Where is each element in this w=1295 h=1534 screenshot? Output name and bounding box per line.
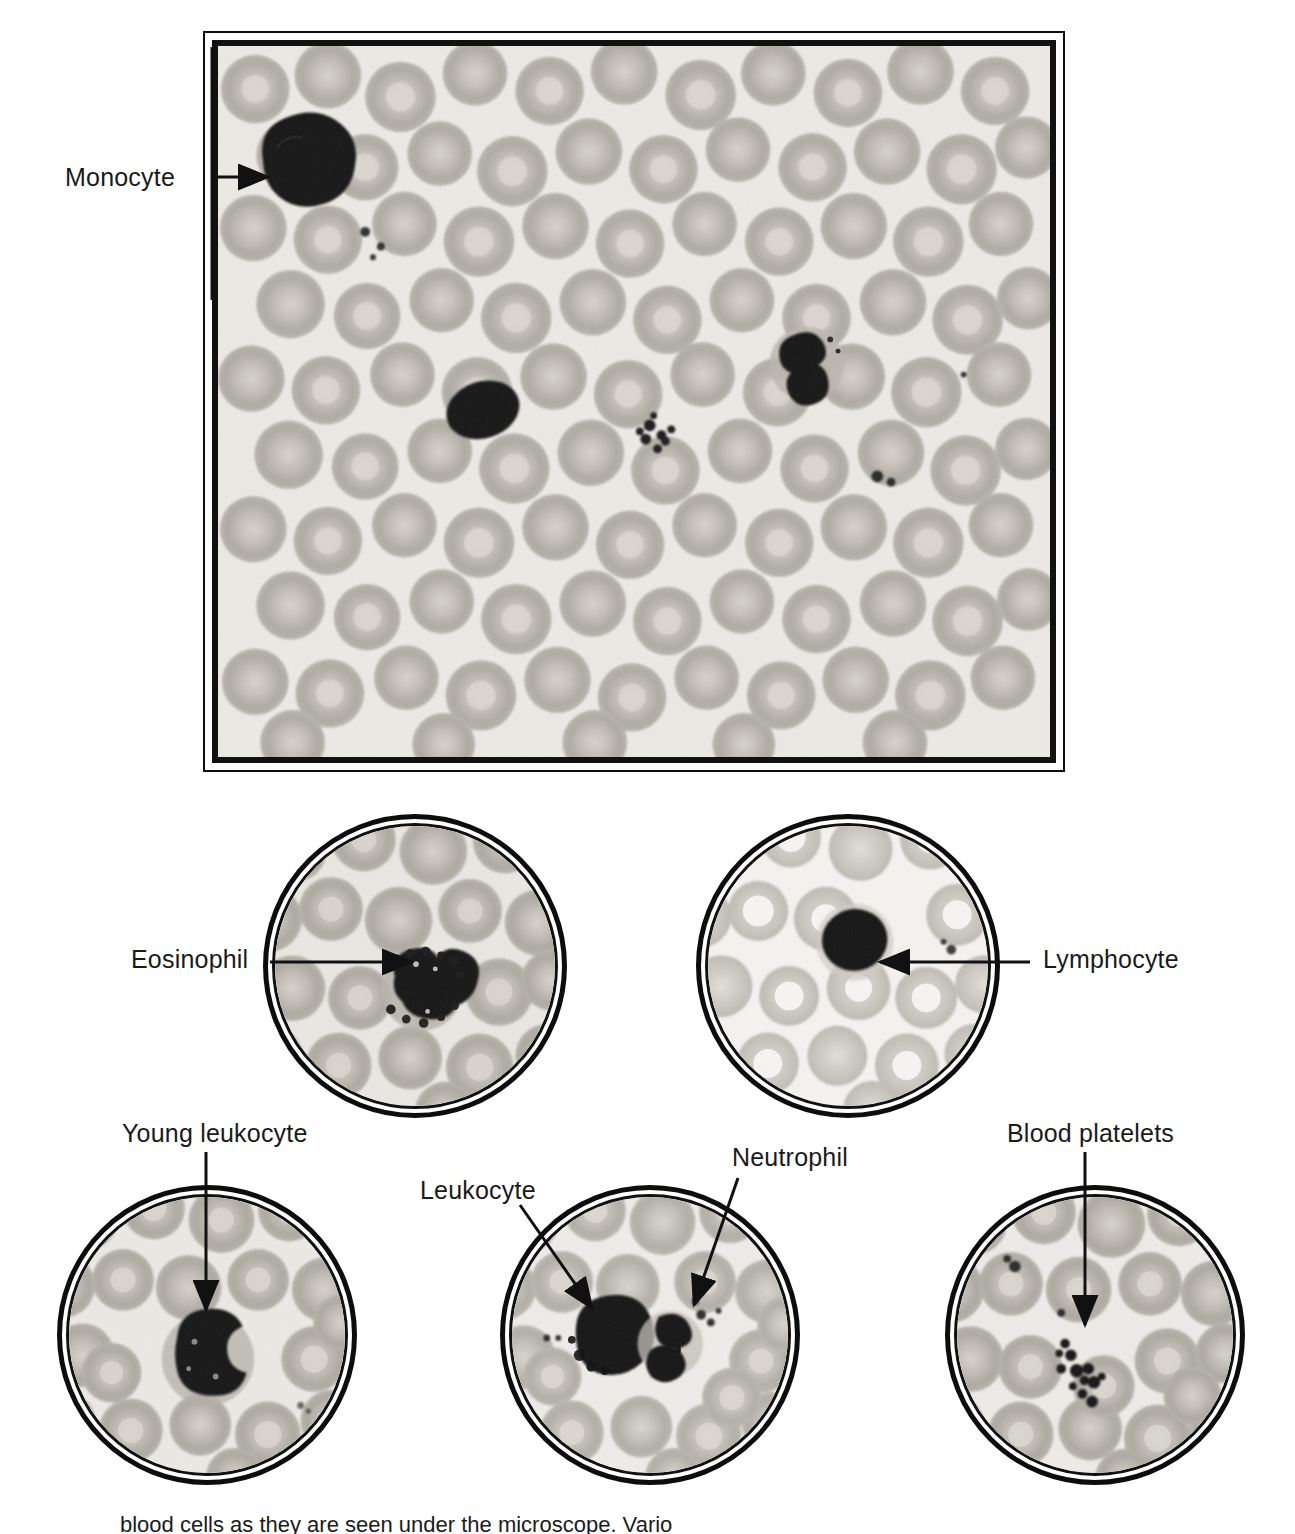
leukocyte-neutrophil-circle xyxy=(500,1185,800,1485)
young-leukocyte-circle-inner xyxy=(66,1194,348,1476)
lymphocyte-micrograph-field xyxy=(708,826,988,1106)
monocyte-cell xyxy=(262,112,356,206)
figure-caption: blood cells as they are seen under the m… xyxy=(120,1512,1220,1534)
main-field-svg xyxy=(218,46,1050,757)
main-micrograph-field xyxy=(218,46,1050,757)
lymphocyte-circle-inner xyxy=(705,823,991,1109)
leukocyte-neutrophil-circle-inner xyxy=(509,1194,791,1476)
label-young-leukocyte: Young leukocyte xyxy=(122,1119,308,1148)
eosinophil-micrograph-field xyxy=(275,826,555,1106)
label-leukocyte: Leukocyte xyxy=(420,1176,536,1205)
label-eosinophil: Eosinophil xyxy=(131,945,248,974)
eosinophil-circle-inner xyxy=(272,823,558,1109)
label-neutrophil: Neutrophil xyxy=(732,1143,848,1172)
leukocyte-neutrophil-micrograph-field xyxy=(512,1197,788,1473)
main-plate-inner-border xyxy=(212,40,1056,763)
young-leukocyte-micrograph-field xyxy=(69,1197,345,1473)
eosinophil-field-svg xyxy=(275,826,555,1106)
lymphocyte-field-svg xyxy=(708,826,988,1106)
leukocyte-neutrophil-field-svg xyxy=(512,1197,788,1473)
lymphocyte-cell xyxy=(816,903,893,981)
main-blood-smear-plate xyxy=(203,31,1065,772)
blood-platelets-circle xyxy=(945,1185,1245,1485)
eosinophil-circle xyxy=(263,814,567,1118)
blood-platelets-circle-inner xyxy=(954,1194,1236,1476)
label-lymphocyte: Lymphocyte xyxy=(1043,945,1179,974)
blood-platelets-micrograph-field xyxy=(957,1197,1233,1473)
young-leukocyte-field-svg xyxy=(69,1197,345,1473)
lymphocyte-circle xyxy=(696,814,1000,1118)
label-monocyte: Monocyte xyxy=(65,163,175,192)
young-leukocyte-circle xyxy=(57,1185,357,1485)
label-blood-platelets: Blood platelets xyxy=(1007,1119,1174,1148)
blood-platelets-field-svg xyxy=(957,1197,1233,1473)
